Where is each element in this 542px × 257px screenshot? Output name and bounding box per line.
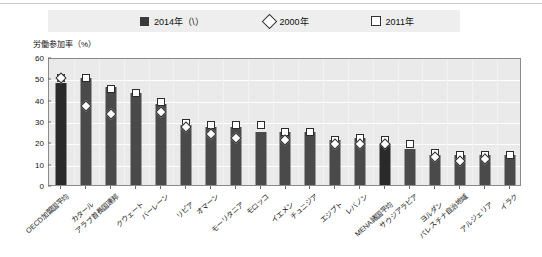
- legend-label-2000: 2000年: [280, 15, 309, 28]
- bar-group[interactable]: [398, 59, 423, 185]
- bar-group[interactable]: [373, 59, 398, 185]
- bar-group[interactable]: [472, 59, 497, 185]
- x-axis-label: オマーン: [193, 191, 220, 217]
- bar-2014[interactable]: [180, 125, 191, 185]
- x-axis-tick-mark: [260, 186, 261, 189]
- bar-group[interactable]: [223, 59, 248, 185]
- y-axis-tick-label: 20: [20, 139, 44, 148]
- bar-2014[interactable]: [504, 155, 515, 185]
- x-axis-tick-mark: [285, 186, 286, 189]
- x-axis-tick-mark: [110, 186, 111, 189]
- marker-2011[interactable]: [132, 89, 140, 97]
- plot-area: [48, 58, 521, 186]
- y-axis-tick-mark: [48, 122, 51, 123]
- bar-group[interactable]: [497, 59, 522, 185]
- bar-group[interactable]: [248, 59, 273, 185]
- bar-group[interactable]: [198, 59, 223, 185]
- top-divider: [0, 3, 542, 4]
- bar-2014[interactable]: [305, 132, 316, 185]
- marker-2011[interactable]: [107, 85, 115, 93]
- bar-group[interactable]: [149, 59, 174, 185]
- bar-group[interactable]: [124, 59, 149, 185]
- legend-label-2011: 2011年: [386, 15, 414, 28]
- bar-2014[interactable]: [404, 149, 415, 185]
- legend-item-2000: 2000年: [264, 15, 309, 28]
- x-axis-tick-mark: [509, 186, 510, 189]
- bar-group[interactable]: [273, 59, 298, 185]
- y-axis-tick-label: 10: [20, 160, 44, 169]
- y-axis-tick-mark: [48, 186, 51, 187]
- marker-2011[interactable]: [232, 121, 240, 129]
- bar-group[interactable]: [74, 59, 99, 185]
- x-axis-tick-mark: [135, 186, 136, 189]
- x-axis-tick-mark: [434, 186, 435, 189]
- y-axis-tick-label: 60: [20, 54, 44, 63]
- x-axis-label: エジプト: [318, 199, 345, 225]
- x-axis-tick-mark: [334, 186, 335, 189]
- bar-group[interactable]: [323, 59, 348, 185]
- x-axis-label: モロッコ: [243, 191, 270, 217]
- chart-legend: 2014年（\） 2000年 2011年: [48, 10, 460, 32]
- legend-item-2014: 2014年（\）: [140, 15, 204, 28]
- marker-2011[interactable]: [406, 140, 414, 148]
- legend-item-2011: 2011年: [371, 15, 414, 28]
- bar-group[interactable]: [49, 59, 74, 185]
- marker-2011[interactable]: [306, 128, 314, 136]
- y-axis-title: 労働参加率（%）: [33, 38, 96, 49]
- marker-2011[interactable]: [506, 151, 514, 159]
- y-axis-tick-mark: [48, 79, 51, 80]
- y-axis-tick-mark: [48, 164, 51, 165]
- x-axis-tick-mark: [384, 186, 385, 189]
- bar-2014[interactable]: [255, 132, 266, 185]
- bar-2014[interactable]: [106, 87, 117, 185]
- y-axis-tick-label: 30: [20, 118, 44, 127]
- x-axis-label: レバノン: [343, 191, 370, 217]
- bar-2014[interactable]: [56, 83, 67, 185]
- bar-group[interactable]: [298, 59, 323, 185]
- bar-group[interactable]: [348, 59, 373, 185]
- y-axis-tick-mark: [48, 100, 51, 101]
- x-axis-tick-mark: [484, 186, 485, 189]
- bar-series-container: [49, 59, 520, 185]
- x-axis-label: OECD加盟国平均: [24, 191, 71, 235]
- x-axis-tick-mark: [309, 186, 310, 189]
- x-axis-label: リビア: [174, 199, 196, 220]
- bar-2014[interactable]: [380, 144, 391, 185]
- bar-2014[interactable]: [81, 78, 92, 185]
- x-axis-tick-mark: [459, 186, 460, 189]
- x-axis-tick-mark: [210, 186, 211, 189]
- bar-group[interactable]: [422, 59, 447, 185]
- marker-2011[interactable]: [82, 74, 90, 82]
- open-diamond-icon: [261, 13, 277, 29]
- y-axis-tick-mark: [48, 58, 51, 59]
- bar-group[interactable]: [447, 59, 472, 185]
- x-axis-tick-mark: [85, 186, 86, 189]
- open-square-icon: [371, 16, 381, 26]
- bar-group[interactable]: [99, 59, 124, 185]
- filled-square-icon: [140, 17, 149, 26]
- x-axis-tick-mark: [409, 186, 410, 189]
- x-axis-tick-mark: [160, 186, 161, 189]
- marker-2011[interactable]: [257, 121, 265, 129]
- chart-canvas: 2014年（\） 2000年 2011年 労働参加率（%） 6050403020…: [0, 0, 542, 257]
- y-axis-tick-label: 0: [20, 182, 44, 191]
- y-axis-tick-mark: [48, 143, 51, 144]
- bar-group[interactable]: [173, 59, 198, 185]
- bar-2014[interactable]: [131, 93, 142, 185]
- x-axis-tick-mark: [60, 186, 61, 189]
- x-axis-tick-mark: [235, 186, 236, 189]
- x-axis-label: イラク: [497, 191, 519, 212]
- legend-label-2014: 2014年（\）: [154, 15, 204, 28]
- y-axis-tick-label: 50: [20, 75, 44, 84]
- y-axis-tick-label: 40: [20, 96, 44, 105]
- x-axis-tick-mark: [185, 186, 186, 189]
- marker-2011[interactable]: [157, 98, 165, 106]
- x-axis-tick-mark: [359, 186, 360, 189]
